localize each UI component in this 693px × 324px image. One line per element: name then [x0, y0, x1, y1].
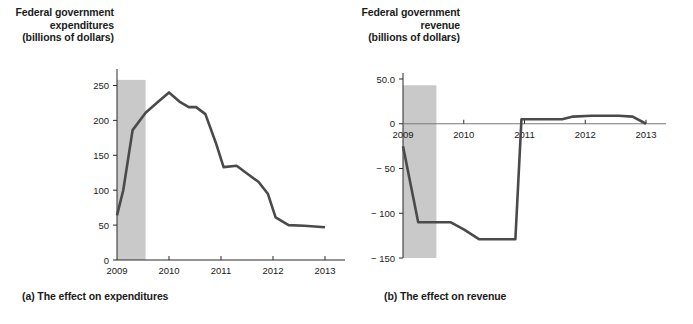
x-tick-label: 2011	[514, 129, 534, 140]
panel-b-caption: (b) The effect on revenue	[384, 290, 506, 302]
panel-revenue: Federal government revenue (billions of …	[346, 0, 692, 324]
expenditures-chart: 05010015020025020092010201120122013	[0, 0, 346, 324]
x-tick-label: 2009	[392, 129, 413, 140]
y-tick-label: 0	[390, 118, 395, 129]
revenue-chart: 50.00− 50− 100− 15020092010201120122013	[346, 0, 692, 324]
x-tick-label: 2012	[262, 265, 283, 276]
x-tick-label: 2010	[158, 265, 179, 276]
y-tick-label: − 100	[371, 208, 395, 219]
data-series-line	[117, 92, 325, 227]
y-tick-label: − 50	[376, 163, 395, 174]
x-tick-label: 2013	[635, 129, 656, 140]
stimulus-effect-figure: Federal government expenditures (billion…	[0, 0, 693, 324]
panel-a-caption: (a) The effect on expenditures	[22, 290, 168, 302]
y-tick-label: 250	[93, 80, 109, 91]
y-tick-label: 50	[98, 220, 109, 231]
y-tick-label: 50.0	[377, 74, 396, 85]
y-tick-label: 100	[93, 185, 109, 196]
y-tick-label: 200	[93, 115, 109, 126]
x-tick-label: 2011	[211, 265, 231, 276]
panel-expenditures: Federal government expenditures (billion…	[0, 0, 346, 324]
x-tick-label: 2010	[453, 129, 474, 140]
x-tick-label: 2009	[106, 265, 127, 276]
y-tick-label: 150	[93, 150, 109, 161]
x-tick-label: 2012	[575, 129, 596, 140]
y-tick-label: − 150	[371, 253, 395, 264]
x-tick-label: 2013	[314, 265, 335, 276]
y-tick-label: 0	[104, 255, 109, 266]
recession-shading	[117, 80, 146, 260]
